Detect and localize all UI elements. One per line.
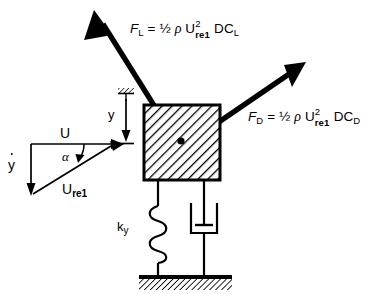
mass-block xyxy=(144,105,220,180)
free-stream-velocity-label: U xyxy=(60,126,70,140)
drag-velocity-exponent: 2 xyxy=(315,107,320,117)
lift-equals: = xyxy=(148,21,156,36)
drag-velocity: U xyxy=(305,109,315,124)
damper-element xyxy=(191,181,217,277)
relative-velocity-label: Ure1 xyxy=(62,182,87,199)
drag-tail-subscript: D xyxy=(353,115,360,126)
galloping-oscillator-diagram: FL = ½ ρ U2re1 DCL FD = ½ ρ U2re1 DCD U … xyxy=(0,0,384,294)
relative-velocity-letter: U xyxy=(62,181,72,197)
displacement-arrow xyxy=(118,99,134,144)
body-velocity-letter: y xyxy=(8,157,15,173)
lift-half: ½ xyxy=(159,21,170,36)
lift-velocity-exponent: 2 xyxy=(195,19,200,29)
diagram-canvas xyxy=(0,0,384,294)
lift-velocity-subscript: re1 xyxy=(195,30,210,40)
drag-half: ½ xyxy=(279,109,290,124)
relative-velocity-subscript: re1 xyxy=(72,188,87,199)
angle-of-attack-label: α xyxy=(62,150,69,163)
body-velocity-label: y xyxy=(8,158,15,172)
lift-tail-subscript: L xyxy=(234,27,239,38)
spring-subscript: y xyxy=(124,225,129,236)
body-velocity-arrow xyxy=(27,144,36,196)
lift-velocity: U xyxy=(185,21,195,36)
spring-element xyxy=(150,181,167,277)
center-of-mass-dot xyxy=(177,137,184,144)
angle-of-attack-arc xyxy=(76,144,85,163)
lift-rho: ρ xyxy=(175,21,182,36)
lift-tail: DC xyxy=(214,21,234,36)
drag-equals: = xyxy=(267,109,275,124)
drag-tail: DC xyxy=(334,109,354,124)
displacement-label: y xyxy=(108,108,115,121)
lift-force-formula: FL = ½ ρ U2re1 DCL xyxy=(130,22,239,37)
lift-symbol-subscript: L xyxy=(138,27,143,38)
drag-rho: ρ xyxy=(294,109,301,124)
drag-velocity-subscript: re1 xyxy=(315,118,330,128)
drag-force-formula: FD = ½ ρ U2re1 DCD xyxy=(248,110,360,125)
drag-symbol-subscript: D xyxy=(256,115,263,126)
spring-stiffness-label: ky xyxy=(117,220,129,236)
ground-support xyxy=(139,277,232,290)
